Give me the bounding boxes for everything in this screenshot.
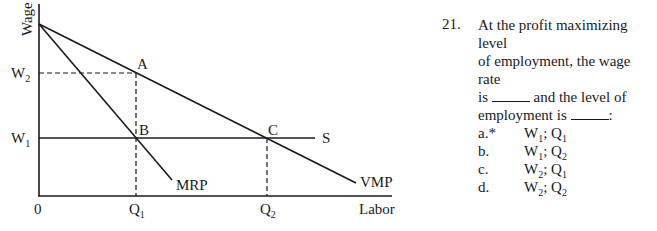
option-d: d.W2; Q2 [478, 178, 653, 196]
w1-tick-label: W1 [11, 130, 30, 149]
w2-tick-label: W2 [11, 65, 30, 84]
point-c-label: C [268, 122, 278, 138]
blank-1 [492, 88, 530, 102]
option-a: a.*W1; Q1 [478, 124, 653, 142]
question-line-2: of employment, the wage rate [478, 52, 653, 88]
x-axis-label: Labor [359, 201, 395, 217]
question-block: At the profit maximizing level of employ… [478, 16, 653, 196]
blank-2 [571, 106, 609, 120]
point-b-label: B [139, 122, 149, 138]
option-c: c.W2; Q1 [478, 160, 653, 178]
q1-tick-label: Q1 [129, 201, 145, 220]
vmp-curve [39, 24, 356, 183]
question-line-1: At the profit maximizing level [478, 16, 653, 52]
question-line-3: is and the level of [478, 88, 653, 106]
mrp-label: MRP [176, 177, 208, 193]
option-b: b.W1; Q2 [478, 142, 653, 160]
y-axis-label: Wage [19, 2, 35, 36]
q2-tick-label: Q2 [260, 201, 276, 220]
question-number: 21. [442, 16, 461, 33]
question-line-4: employment is : [478, 106, 653, 124]
origin-label: 0 [34, 201, 42, 217]
vmp-label: VMP [360, 174, 393, 190]
mrp-curve [39, 24, 172, 180]
labor-market-chart: Wage Labor 0 W2 W1 Q1 Q2 A B C S MRP VMP [0, 0, 430, 231]
point-a-label: A [137, 56, 148, 72]
supply-label: S [322, 130, 330, 146]
